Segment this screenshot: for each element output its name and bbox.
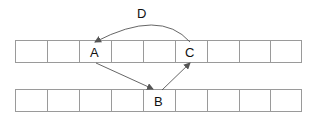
node-label-c: C: [185, 45, 194, 60]
array-top: [16, 41, 302, 63]
edge-label-d: D: [137, 6, 146, 21]
diagram-canvas: A C B D: [0, 0, 313, 118]
edge-a-to-b-arrow: [96, 63, 153, 89]
node-label-a: A: [90, 45, 99, 60]
node-label-b: B: [154, 94, 163, 109]
edge-b-to-c-arrow: [162, 63, 190, 90]
edge-c-to-a-arc: [95, 25, 190, 42]
